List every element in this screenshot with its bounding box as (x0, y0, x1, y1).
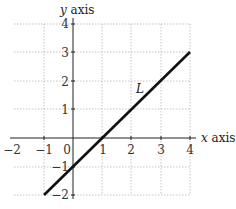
line-label: L (135, 82, 144, 96)
origin-label: 0 (63, 143, 71, 157)
x-tick-label: 1 (99, 143, 107, 157)
x-tick-label: −1 (35, 143, 53, 157)
grid (14, 24, 190, 195)
y-tick-label: 1 (61, 103, 69, 117)
x-axis-label: x axis (201, 131, 236, 145)
x-tick-label: 4 (186, 143, 194, 157)
y-tick-label: 2 (61, 75, 69, 89)
y-tick-label: −2 (51, 188, 69, 202)
x-tick-label: −2 (3, 143, 21, 157)
y-tick-label: 3 (61, 46, 69, 60)
x-tick-label: 2 (127, 143, 135, 157)
y-tick-label: 4 (61, 17, 69, 31)
x-axis-word: axis (208, 131, 236, 145)
y-tick-label: −1 (51, 160, 69, 174)
y-axis-label: y axis (59, 3, 95, 17)
chart: −2 −1 0 1 2 3 4 4 3 2 1 −1 −2 y axis x a… (0, 0, 236, 209)
y-axis-word: axis (67, 3, 95, 17)
x-tick-label: 3 (157, 143, 165, 157)
